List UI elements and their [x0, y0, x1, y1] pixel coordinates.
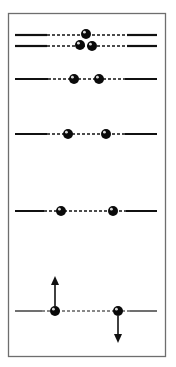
ball-highlight	[89, 43, 92, 46]
diagram-canvas	[0, 0, 176, 367]
particle-ball-icon	[75, 40, 85, 50]
particle-ball-icon	[87, 41, 97, 51]
particle-ball-icon	[81, 29, 91, 39]
ball-highlight	[96, 76, 99, 79]
ball-highlight	[115, 308, 118, 311]
level-row-1	[15, 29, 157, 39]
level-row-5	[15, 206, 157, 216]
particle-ball-icon	[94, 74, 104, 84]
ball-highlight	[83, 31, 86, 34]
level-row-4	[15, 129, 157, 139]
arrow-down-icon	[114, 316, 122, 343]
ball-highlight	[58, 208, 61, 211]
ball-highlight	[65, 131, 68, 134]
particle-ball-icon	[56, 206, 66, 216]
level-row-3	[15, 74, 157, 84]
particle-ball-icon	[50, 306, 60, 316]
diagram-frame	[9, 14, 166, 357]
level-row-2	[15, 40, 157, 51]
energy-levels	[15, 29, 157, 316]
particle-ball-icon	[69, 74, 79, 84]
ball-highlight	[71, 76, 74, 79]
ball-highlight	[52, 308, 55, 311]
arrow-head	[51, 276, 59, 285]
displacement-arrows	[51, 276, 122, 343]
level-row-6	[15, 306, 157, 316]
particle-ball-icon	[63, 129, 73, 139]
particle-ball-icon	[108, 206, 118, 216]
arrow-head	[114, 334, 122, 343]
ball-highlight	[103, 131, 106, 134]
ball-highlight	[77, 42, 80, 45]
ball-highlight	[110, 208, 113, 211]
particle-ball-icon	[101, 129, 111, 139]
arrow-up-icon	[51, 276, 59, 306]
particle-ball-icon	[113, 306, 123, 316]
